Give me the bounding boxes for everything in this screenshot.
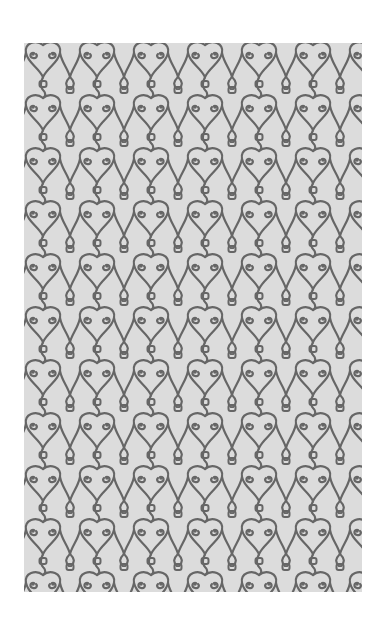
scroll-pattern [24,43,362,592]
pattern-swatch: Repeating wrought-iron style heart and s… [24,43,362,592]
